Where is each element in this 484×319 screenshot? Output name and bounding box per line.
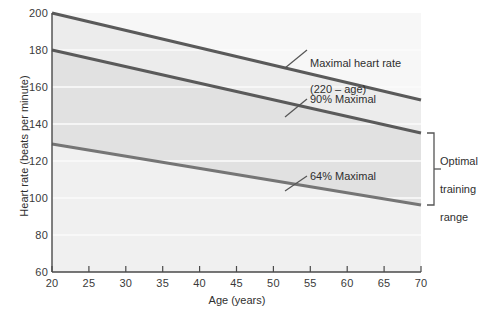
x-tick-20: 20 <box>32 277 72 291</box>
optimal-training-range-bracket <box>427 133 441 205</box>
x-tick-70: 70 <box>401 277 441 291</box>
annotation-range-line3: range <box>440 210 484 224</box>
y-axis-title: Heart rate (beats per minute) <box>18 36 30 256</box>
x-axis-title: Age (years) <box>52 294 422 306</box>
annotation-ninety-percent-maximal: 90% Maximal <box>310 93 440 106</box>
heart-rate-training-zone-chart: 200 180 160 140 120 100 80 60 20 25 30 3… <box>0 0 484 319</box>
x-tick-45: 45 <box>217 277 257 291</box>
x-tick-65: 65 <box>364 277 404 291</box>
annotation-maximal-line1: Maximal heart rate <box>310 57 460 70</box>
annotation-range-line2: training <box>440 182 484 196</box>
x-tick-25: 25 <box>69 277 109 291</box>
annotation-optimal-training-range: Optimal training range <box>440 140 484 238</box>
x-tick-55: 55 <box>290 277 330 291</box>
x-tick-60: 60 <box>327 277 367 291</box>
x-tick-50: 50 <box>253 277 293 291</box>
annotation-sixtyfour-percent-maximal: 64% Maximal <box>310 170 440 183</box>
x-tick-30: 30 <box>106 277 146 291</box>
annotation-range-line1: Optimal <box>440 154 484 168</box>
x-tick-40: 40 <box>180 277 220 291</box>
x-tick-35: 35 <box>143 277 183 291</box>
